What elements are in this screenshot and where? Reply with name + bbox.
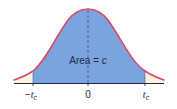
tick-label-neg-tc: −tc [25,89,38,101]
c-subscript: c [146,94,150,101]
area-label-prefix: Area = [69,55,102,66]
area-label-var: c [102,55,107,66]
distribution-svg: Area = c −tc 0 tc [0,0,177,109]
tick-label-zero: 0 [85,89,91,100]
tick-label-tc: tc [143,89,150,101]
t-distribution-figure: Area = c −tc 0 tc [0,0,177,109]
area-label: Area = c [69,55,107,66]
central-area-region [33,9,145,83]
c-subscript: c [34,94,38,101]
